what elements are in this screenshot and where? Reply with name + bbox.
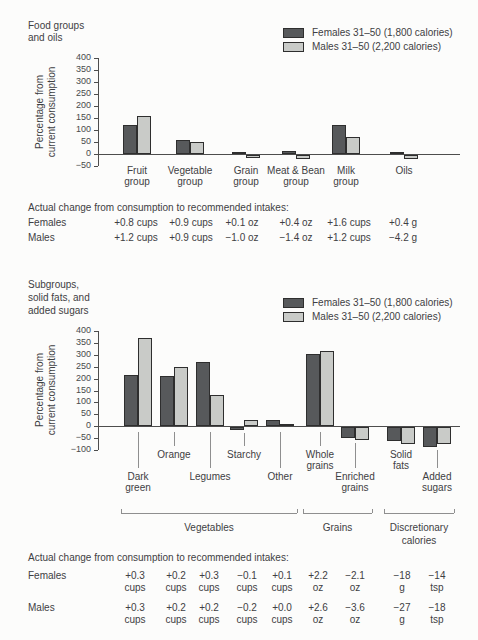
chart1-title-line2: and oils [28,32,84,44]
category-label-enriched-grains: Enrichedgrains [315,471,395,493]
table-value-males-meat-bean-group: −1.4 oz [268,232,324,244]
males-legend-swatch [283,312,304,322]
chart2-y-tick [94,343,98,344]
table-value-males-vegetable-group: +0.9 cups [163,232,219,244]
bar-males-other [280,424,294,426]
chart2-y-tick-label: −100 [59,444,91,455]
chart1-y-tick-label: 50 [59,136,91,147]
chart1-table-row-label-males: Males [28,232,55,244]
chart2-legend: Females 31–50 (1,800 calories) Males 31–… [283,298,453,326]
chart2-y-tick-label: 250 [59,361,91,372]
bar-males-milk-group [346,137,360,154]
males-legend-swatch [283,42,304,52]
chart2-ylabel-line1: Percentage from [34,330,46,450]
chart2-legend-females-row: Females 31–50 (1,800 calories) [283,298,453,308]
category-label-solid-fats: Solidfats [361,449,441,471]
chart2-y-tick [94,414,98,415]
bar-females-added-sugars [423,427,437,447]
category-label-added-sugars: Addedsugars [397,471,477,493]
chart1-y-tick [94,82,98,83]
bar-females-vegetable-group [176,140,190,154]
chart2-y-axis-line [98,331,99,450]
bar-males-orange [174,367,188,427]
leader-line-whole-grains [320,432,321,446]
chart2-y-tick [94,402,98,403]
chart2-y-tick [94,450,98,451]
table-value-males-added-sugars: −18tsp [409,602,465,626]
chart2-table-row-label-males: Males [28,602,55,614]
bar-males-vegetable-group [190,142,204,154]
group-label-vegetables: Vegetables [161,521,257,534]
group-bracket-tick-vegetables [297,509,298,513]
category-label-orange: Orange [134,449,214,460]
category-label-other: Other [240,471,320,482]
group-bracket-grains [303,513,372,514]
group-bracket-tick-grains [372,509,373,513]
table-value-males-oils: −4.2 g [375,232,431,244]
chart1-y-tick [94,70,98,71]
females-legend-swatch [283,298,304,308]
chart1-title-line1: Food groups [28,20,84,32]
chart2-y-axis-label: Percentage from current consumption [34,330,60,450]
chart2-y-tick-label: 0 [59,420,91,431]
table-value-females-milk-group: +1.6 cups [321,217,377,229]
chart2-y-tick [94,391,98,392]
table-value-males-grain-group: −1.0 oz [214,232,270,244]
females-legend-label: Females 31–50 (1,800 calories) [312,28,453,38]
chart1-ylabel-line1: Percentage from [34,52,46,172]
bar-females-dark-green [124,375,138,426]
bar-males-added-sugars [437,427,451,444]
chart1-y-tick-label: 150 [59,112,91,123]
table-value-females-grain-group: +0.1 oz [214,217,270,229]
group-bracket-vegetables [121,513,297,514]
table-value-females-meat-bean-group: +0.4 oz [268,217,324,229]
chart2-y-tick [94,379,98,380]
bar-males-legumes [210,395,224,426]
table-value-females-fruit-group: +0.8 cups [108,217,164,229]
category-label-legumes: Legumes [170,471,250,482]
chart2-y-tick-label: 200 [59,373,91,384]
bar-females-solid-fats [387,427,401,441]
chart2-y-tick [94,355,98,356]
chart2-y-tick-label: −50 [59,432,91,443]
females-legend-label: Females 31–50 (1,800 calories) [312,298,453,308]
group-bracket-tick-grains [303,509,304,513]
bar-males-starchy [244,420,258,426]
chart1-y-tick-label: 100 [59,124,91,135]
chart1-y-tick [94,142,98,143]
bar-females-fruit-group [123,125,137,154]
category-label-whole-grains: Wholegrains [280,449,360,471]
chart2-y-tick-label: 300 [59,349,91,360]
chart2-title-line3: added sugars [28,304,90,317]
group-label-discretionary-calories: Discretionarycalories [371,521,467,547]
chart2-title-line2: solid fats, and [28,291,90,304]
group-bracket-tick-discretionary-calories [454,509,455,513]
bar-females-orange [160,376,174,426]
bar-males-dark-green [138,338,152,426]
chart2-y-tick [94,438,98,439]
bar-females-legumes [196,362,210,426]
chart2-y-tick-label: 350 [59,337,91,348]
bar-females-other [266,420,280,426]
chart1-y-axis-label: Percentage from current consumption [34,52,60,172]
females-legend-swatch [283,28,304,38]
bar-males-whole-grains [320,351,334,426]
chart1-y-tick-label: 250 [59,88,91,99]
chart2-y-tick [94,367,98,368]
chart2-table-header: Actual change from consumption to recomm… [28,552,289,564]
bar-females-grain-group [232,152,246,154]
chart1-table-header: Actual change from consumption to recomm… [28,202,289,214]
chart2-ylabel-line2: current consumption [46,330,58,450]
chart1-legend-males-row: Males 31–50 (2,200 calories) [283,42,453,52]
chart1-ylabel-line2: current consumption [46,52,58,172]
chart1-y-tick [94,58,98,59]
males-legend-label: Males 31–50 (2,200 calories) [312,312,441,322]
chart1-y-tick [94,106,98,107]
leader-line-starchy [244,433,245,446]
group-bracket-discretionary-calories [384,513,454,514]
table-value-males-milk-group: +1.2 cups [321,232,377,244]
group-bracket-tick-vegetables [121,509,122,513]
chart1-y-tick [94,94,98,95]
table-value-females-oils: +0.4 g [375,217,431,229]
chart1-y-tick [94,130,98,131]
